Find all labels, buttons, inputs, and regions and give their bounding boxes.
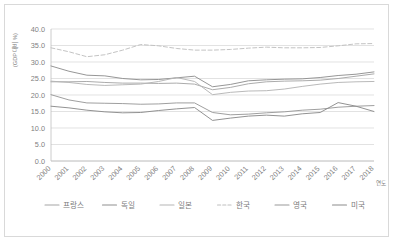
- y-tick-label: 35.0: [31, 41, 45, 50]
- x-tick-label: 2009: [196, 164, 214, 182]
- x-tick-label: 2016: [322, 164, 340, 182]
- line-chart: 40.035.030.025.020.015.010.05.00.0200020…: [5, 5, 390, 238]
- x-tick-label: 2014: [286, 164, 304, 182]
- legend-label-1[interactable]: 독일: [121, 201, 135, 210]
- x-tick-label: 2006: [142, 164, 160, 182]
- legend-label-0[interactable]: 프랑스: [63, 201, 84, 210]
- x-axis-title: 연도: [376, 179, 386, 186]
- legend-label-3[interactable]: 한국: [236, 201, 250, 210]
- x-tick-label: 2004: [106, 164, 124, 182]
- series-line-0: [51, 74, 374, 90]
- x-tick-label: 2008: [178, 164, 196, 182]
- x-tick-label: 2007: [160, 164, 178, 182]
- y-axis-title: (GDP 대비 %): [11, 33, 19, 67]
- x-tick-label: 2005: [124, 164, 142, 182]
- y-tick-label: 30.0: [31, 58, 45, 67]
- x-tick-label: 2011: [232, 164, 249, 181]
- y-tick-label: 0.0: [35, 157, 45, 166]
- x-tick-label: 2015: [304, 164, 322, 182]
- x-tick-label: 2012: [250, 164, 268, 182]
- legend-label-4[interactable]: 영국: [293, 200, 307, 210]
- x-tick-label: 2003: [88, 164, 106, 182]
- legend-label-5[interactable]: 미국: [351, 201, 365, 210]
- y-tick-label: 5.0: [35, 140, 45, 149]
- y-tick-label: 15.0: [31, 107, 45, 116]
- legend-label-2[interactable]: 일본: [178, 201, 192, 210]
- x-tick-label: 2018: [358, 164, 376, 182]
- x-tick-label: 2017: [340, 164, 358, 182]
- x-tick-label: 2013: [268, 164, 286, 182]
- chart-frame: 40.035.030.025.020.015.010.05.00.0200020…: [4, 4, 389, 237]
- chart-svg: 40.035.030.025.020.015.010.05.00.0200020…: [5, 5, 390, 238]
- y-tick-label: 25.0: [31, 74, 45, 83]
- y-tick-label: 10.0: [31, 124, 45, 133]
- x-tick-label: 2001: [53, 164, 71, 182]
- y-tick-label: 40.0: [31, 25, 45, 34]
- x-tick-label: 2002: [70, 164, 88, 182]
- x-tick-label: 2000: [35, 164, 53, 182]
- y-tick-label: 20.0: [31, 91, 45, 100]
- x-tick-label: 2010: [214, 164, 232, 182]
